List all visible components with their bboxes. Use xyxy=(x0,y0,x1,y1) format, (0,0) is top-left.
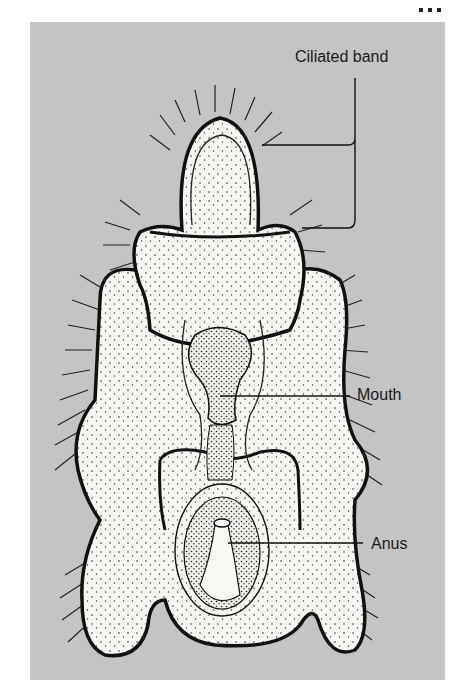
upper-lobe-outline xyxy=(134,118,304,345)
larva-diagram xyxy=(0,0,458,697)
label-mouth: Mouth xyxy=(357,387,401,403)
intestine xyxy=(207,425,234,480)
anus-opening xyxy=(214,519,230,527)
label-ciliated-band: Ciliated band xyxy=(295,49,388,65)
label-anus: Anus xyxy=(371,536,407,552)
ciliated-band-leader xyxy=(262,78,355,228)
